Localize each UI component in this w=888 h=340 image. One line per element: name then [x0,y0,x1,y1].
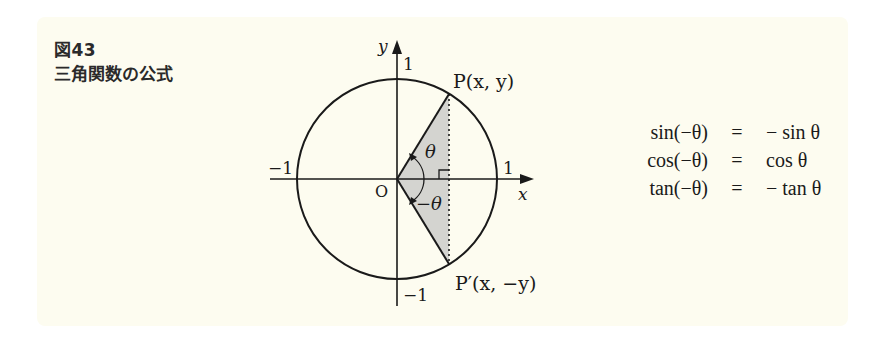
formula-cos: cos(−θ) = cos θ [584,146,886,174]
formula-tan: tan(−θ) = − tan θ [584,174,886,202]
formula-equals: = [708,121,766,144]
y-axis-arrow-icon [392,40,402,54]
neg-theta-label: −θ [416,193,442,214]
y-axis-label: y [377,36,388,56]
formula-rhs: cos θ [766,149,886,172]
theta-label: θ [425,141,436,162]
point-P-label: P(x, y) [453,70,514,92]
formula-rhs: − tan θ [766,177,886,200]
formula-rhs: − sin θ [766,121,886,144]
x-axis-arrow-icon [520,174,534,184]
formula-lhs: tan(−θ) [584,177,708,200]
formula-equals: = [708,177,766,200]
formula-equals: = [708,149,766,172]
origin-label: O [375,182,388,201]
tick-label-y-pos: 1 [403,54,414,74]
tick-label-x-pos: 1 [503,158,514,178]
formula-lhs: sin(−θ) [584,121,708,144]
point-P-prime-label: P′(x, −y) [455,272,536,294]
formula-lhs: cos(−θ) [584,149,708,172]
tick-label-x-neg: −1 [268,158,293,178]
formula-list: sin(−θ) = − sin θ cos(−θ) = cos θ tan(−θ… [584,118,886,202]
tick-label-y-neg: −1 [403,285,428,305]
formula-sin: sin(−θ) = − sin θ [584,118,886,146]
x-axis-label: x [518,184,528,204]
